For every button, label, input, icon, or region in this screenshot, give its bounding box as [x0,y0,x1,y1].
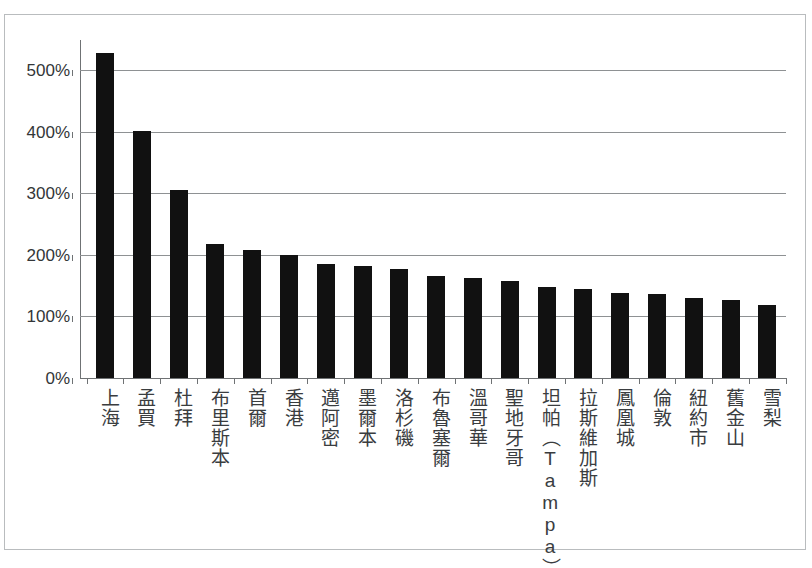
x-axis-category-label: 首爾 [239,388,265,428]
bar-6 [280,255,298,378]
x-axis-category-label: 香港 [276,388,302,428]
x-axis-category-label: 孟買 [129,388,155,428]
y-axis-tick-label: 100% [8,308,70,325]
x-tick-13 [528,378,529,384]
bar-1 [96,53,114,378]
x-axis-category-label: 紐約市 [681,388,707,448]
x-axis-category-label: 墨爾本 [350,388,376,448]
bar-8 [354,266,372,378]
x-axis-category-label: 上海 [92,388,118,428]
y-tick-500 [72,70,73,76]
bar-12 [501,281,519,378]
x-axis-category-label: 邁阿密 [313,388,339,448]
x-axis-category-label: 坦帕（Tampa） [534,388,560,568]
gridline-0 [80,378,786,379]
x-axis-category-label: 杜拜 [166,388,192,428]
y-axis-tick-label: 400% [8,124,70,141]
y-axis-tick-label: 500% [8,62,70,79]
x-tick-10 [418,378,419,384]
x-tick-5 [234,378,235,384]
x-axis-category-label: 溫哥華 [460,388,486,448]
bar-15 [611,293,629,378]
x-tick-16 [639,378,640,384]
x-axis-category-label: 聖地牙哥 [497,388,523,468]
y-axis-tick-label: 0% [8,370,70,387]
bar-10 [427,276,445,378]
x-axis-category-label: 拉斯維加斯 [570,388,596,488]
y-axis-tick-label: 200% [8,247,70,264]
bar-series [80,32,786,378]
x-tick-3 [160,378,161,384]
y-tick-400 [72,132,73,138]
x-tick-4 [197,378,198,384]
x-tick-6 [271,378,272,384]
y-tick-300 [72,193,73,199]
x-axis-category-label: 倫敦 [644,388,670,428]
bar-4 [206,244,224,378]
y-axis-tick-label: 300% [8,185,70,202]
x-tick-11 [455,378,456,384]
x-tick-15 [602,378,603,384]
bar-11 [464,278,482,378]
x-axis-category-label: 洛杉磯 [386,388,412,448]
bar-16 [648,294,666,378]
bar-7 [317,264,335,378]
x-tick-8 [344,378,345,384]
x-tick-1 [87,378,88,384]
x-tick-19 [749,378,750,384]
x-axis-category-label: 布魯塞爾 [423,388,449,468]
y-tick-200 [72,255,73,261]
x-tick-12 [491,378,492,384]
y-axis-labels: 0%100%200%300%400%500% [0,0,70,558]
x-axis-category-label: 布里斯本 [202,388,228,468]
y-tick-100 [72,316,73,322]
x-axis-category-label: 鳳凰城 [607,388,633,448]
bar-18 [722,300,740,378]
bar-5 [243,250,261,378]
bar-2 [133,131,151,378]
bar-13 [538,287,556,378]
x-axis-category-label: 舊金山 [718,388,744,448]
x-tick-14 [565,378,566,384]
x-tick-18 [712,378,713,384]
x-tick-7 [307,378,308,384]
bar-9 [390,269,408,378]
x-axis-category-label: 雪梨 [754,388,780,428]
bar-17 [685,298,703,378]
bar-19 [758,305,776,378]
x-tick-9 [381,378,382,384]
bar-3 [170,190,188,378]
bar-14 [574,289,592,378]
x-tick-end [786,378,787,384]
x-tick-17 [675,378,676,384]
x-tick-2 [123,378,124,384]
y-tick-0 [72,378,73,384]
